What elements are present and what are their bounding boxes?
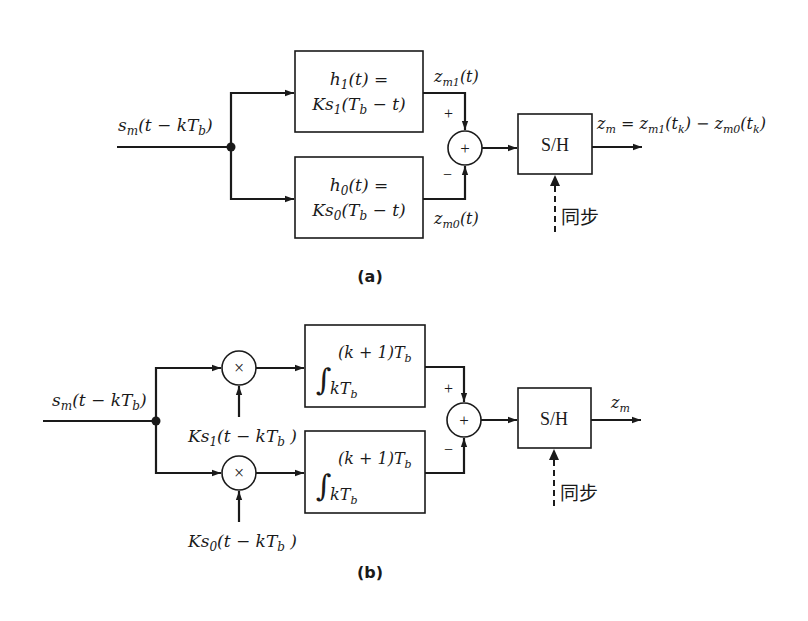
output-label: zm bbox=[610, 393, 630, 415]
multiply-icon: × bbox=[234, 463, 244, 483]
minus-sign: − bbox=[443, 166, 452, 183]
filter-h0-line1: h0(t) = bbox=[330, 175, 388, 198]
minus-sign: − bbox=[444, 441, 453, 458]
matched-filter-receiver-diagrams: sm(t − kTb) h1(t) = Ks1(Tb − t) h0(t) = … bbox=[0, 0, 808, 621]
zm0-label: zm0(t) bbox=[433, 209, 479, 231]
sample-hold-label: S/H bbox=[540, 409, 568, 429]
sync-arrowhead-icon bbox=[550, 175, 560, 186]
caption-a: (a) bbox=[357, 267, 382, 286]
integrator-bottom-upper-limit: (k + 1)Tb bbox=[338, 449, 412, 471]
upper-branch-arrow bbox=[231, 93, 294, 147]
input-label: sm(t − kTb) bbox=[52, 390, 147, 413]
lower-branch-arrow bbox=[231, 147, 294, 199]
integrator-top-upper-limit: (k + 1)Tb bbox=[338, 343, 412, 365]
plus-sign: + bbox=[444, 105, 453, 122]
input-label: sm(t − kTb) bbox=[118, 115, 213, 138]
sync-label: 同步 bbox=[561, 206, 599, 228]
upper-branch-arrow bbox=[156, 368, 221, 421]
filter-h1-box bbox=[295, 51, 423, 132]
filter-h0-line2: Ks0(Tb − t) bbox=[311, 200, 405, 223]
zm1-label: zm1(t) bbox=[433, 67, 479, 89]
summer-plus-icon: + bbox=[459, 411, 469, 430]
diagram-b: sm(t − kTb) × × Ks1(t − kTb ) Ks0(t − kT… bbox=[43, 325, 641, 582]
caption-b: (b) bbox=[357, 563, 383, 582]
sync-label: 同步 bbox=[560, 482, 598, 504]
filter-h1-line1: h1(t) = bbox=[330, 69, 388, 92]
plus-sign: + bbox=[444, 380, 453, 397]
sync-arrowhead-icon bbox=[549, 449, 559, 460]
filter-h0-box bbox=[295, 157, 423, 238]
diagram-a: sm(t − kTb) h1(t) = Ks1(Tb − t) h0(t) = … bbox=[117, 51, 766, 286]
filter-h1-line2: Ks1(Tb − t) bbox=[311, 94, 405, 117]
output-label: zm = zm1(tk) − zm0(tk) bbox=[596, 114, 766, 136]
multiply-icon: × bbox=[234, 358, 244, 378]
ref-top-label: Ks1(t − kTb ) bbox=[187, 426, 297, 449]
summer-plus-icon: + bbox=[460, 139, 470, 158]
sample-hold-label: S/H bbox=[541, 135, 569, 155]
ref-bottom-label: Ks0(t − kTb ) bbox=[187, 531, 297, 554]
